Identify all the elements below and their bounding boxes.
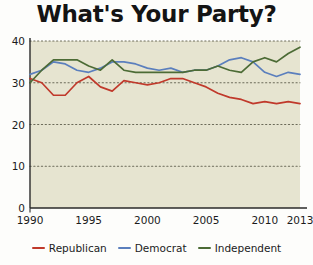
- chart-page: What's Your Party? 010203040199019952000…: [0, 0, 313, 265]
- x-axis-tick-labels: 199019952000200520102013: [17, 214, 313, 226]
- x-axis-tick-label: 2005: [193, 214, 220, 226]
- legend-item-democrat[interactable]: Democrat: [118, 242, 187, 254]
- legend-label: Republican: [49, 242, 107, 254]
- x-axis-tick-label: 2000: [134, 214, 161, 226]
- x-axis-tick-label: 1990: [17, 214, 44, 226]
- x-axis-tick-label: 1995: [75, 214, 102, 226]
- y-axis-tick-label: 10: [12, 160, 25, 172]
- y-axis-tick-label: 0: [18, 202, 25, 214]
- line-chart: 010203040199019952000200520102013: [0, 0, 313, 265]
- legend-item-independent[interactable]: Independent: [198, 242, 282, 254]
- legend-label: Independent: [215, 242, 282, 254]
- x-axis-tick-label: 2013: [287, 214, 313, 226]
- line-swatch-icon: [32, 247, 45, 249]
- legend-item-republican[interactable]: Republican: [32, 242, 107, 254]
- legend-label: Democrat: [135, 242, 187, 254]
- y-axis-tick-label: 40: [12, 35, 25, 47]
- chart-legend: Republican Democrat Independent: [0, 242, 313, 254]
- y-axis-tick-label: 30: [12, 77, 25, 89]
- y-axis-tick-label: 20: [12, 119, 25, 131]
- line-swatch-icon: [118, 247, 131, 249]
- x-axis-tick-label: 2010: [251, 214, 278, 226]
- line-swatch-icon: [198, 247, 211, 249]
